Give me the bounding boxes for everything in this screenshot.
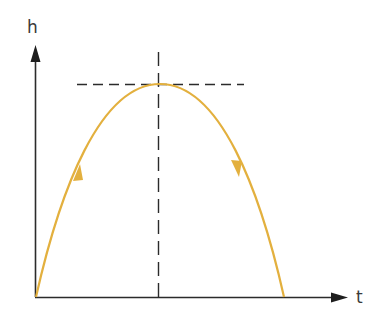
trajectory-curve-visible: [36, 84, 284, 297]
y-axis-arrow-icon: [31, 45, 41, 62]
x-axis-label: t: [356, 287, 363, 307]
y-axis-label: h: [27, 17, 38, 37]
descending-arrow-icon: [231, 160, 242, 177]
x-axis-arrow-icon: [331, 293, 348, 303]
trajectory-diagram: h t: [0, 0, 385, 316]
